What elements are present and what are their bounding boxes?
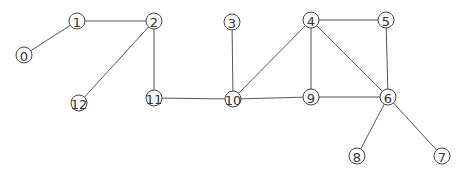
edge-4-6 <box>311 20 388 97</box>
node-9: 9 <box>303 89 319 106</box>
node-label: 6 <box>384 91 392 106</box>
node-11: 11 <box>146 90 163 107</box>
node-2: 2 <box>146 13 162 30</box>
edge-6-8 <box>357 97 388 156</box>
edges-layer <box>24 20 442 156</box>
edge-5-6 <box>386 20 388 97</box>
node-10: 10 <box>225 91 242 108</box>
edge-0-1 <box>24 21 77 55</box>
node-label: 0 <box>20 49 28 64</box>
node-label: 11 <box>146 92 163 107</box>
node-label: 8 <box>353 150 361 165</box>
edge-3-10 <box>232 22 233 99</box>
node-label: 9 <box>307 91 315 106</box>
node-1: 1 <box>69 13 85 30</box>
node-label: 1 <box>73 15 81 30</box>
edge-10-4 <box>233 20 311 99</box>
node-label: 7 <box>438 150 446 165</box>
node-3: 3 <box>224 14 240 31</box>
node-label: 5 <box>382 14 390 29</box>
node-label: 12 <box>71 97 88 112</box>
node-4: 4 <box>303 12 319 29</box>
node-6: 6 <box>380 89 396 106</box>
edge-10-9 <box>233 97 311 99</box>
node-label: 2 <box>150 15 158 30</box>
node-7: 7 <box>434 148 450 165</box>
node-label: 10 <box>225 93 242 108</box>
node-12: 12 <box>71 95 88 112</box>
edge-11-10 <box>154 98 233 99</box>
edge-6-7 <box>388 97 442 156</box>
node-label: 4 <box>307 14 315 29</box>
edge-2-12 <box>79 21 154 103</box>
node-5: 5 <box>378 12 394 29</box>
node-label: 3 <box>228 16 236 31</box>
node-8: 8 <box>349 148 365 165</box>
node-0: 0 <box>16 47 32 64</box>
graph-diagram: 0123456789101112 <box>0 0 468 175</box>
